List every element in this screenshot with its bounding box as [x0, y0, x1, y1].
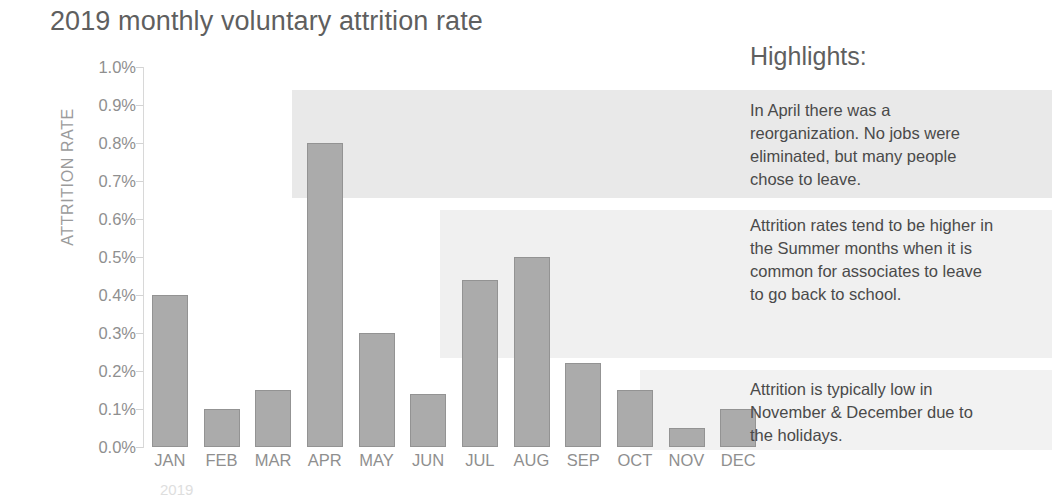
bar-jun[interactable] — [410, 394, 446, 447]
bar-chart-plot-area — [144, 67, 764, 447]
y-tick-mark — [136, 219, 143, 220]
bar-jul[interactable] — [462, 280, 498, 447]
y-axis-tick-labels: 1.0%0.9%0.8%0.7%0.6%0.5%0.4%0.3%0.2%0.1%… — [78, 67, 136, 447]
bar-mar[interactable] — [255, 390, 291, 447]
x-tick-label: JUL — [454, 452, 506, 469]
x-tick-label: FEB — [196, 452, 248, 469]
x-tick-label: DEC — [712, 452, 764, 469]
bar-aug[interactable] — [514, 257, 550, 447]
y-tick-label: 0.5% — [98, 249, 136, 266]
bar-nov[interactable] — [669, 428, 705, 447]
y-tick-mark — [136, 333, 143, 334]
y-axis-title: ATTRITION RATE — [59, 67, 77, 287]
y-tick-mark — [136, 371, 143, 372]
highlight-text-holidays: Attrition is typically low in November &… — [750, 378, 998, 447]
x-tick-label: JUN — [402, 452, 454, 469]
highlight-text-april: In April there was a reorganization. No … — [750, 99, 998, 191]
x-tick-label: AUG — [506, 452, 558, 469]
bar-feb[interactable] — [204, 409, 240, 447]
y-tick-mark — [136, 67, 143, 68]
highlight-text-summer: Attrition rates tend to be higher in the… — [750, 214, 998, 306]
x-axis-footnote: 2019 — [160, 481, 193, 498]
x-axis-tick-labels: JANFEBMARAPRMAYJUNJULAUGSEPOCTNOVDEC — [144, 452, 764, 476]
chart-title: 2019 monthly voluntary attrition rate — [50, 6, 483, 37]
bar-oct[interactable] — [617, 390, 653, 447]
x-tick-label: SEP — [557, 452, 609, 469]
y-tick-label: 0.3% — [98, 325, 136, 342]
y-tick-mark — [136, 143, 143, 144]
y-axis-line — [143, 67, 144, 448]
x-tick-label: MAR — [247, 452, 299, 469]
bar-sep[interactable] — [565, 363, 601, 447]
y-tick-mark — [136, 257, 143, 258]
y-tick-mark — [136, 105, 143, 106]
x-tick-label: MAY — [351, 452, 403, 469]
y-tick-label: 0.2% — [98, 363, 136, 380]
y-tick-label: 0.1% — [98, 401, 136, 418]
x-tick-label: NOV — [661, 452, 713, 469]
y-tick-label: 0.7% — [98, 173, 136, 190]
y-tick-label: 0.6% — [98, 211, 136, 228]
y-tick-mark — [136, 181, 143, 182]
x-tick-label: JAN — [144, 452, 196, 469]
y-tick-mark — [136, 409, 143, 410]
y-tick-mark — [136, 295, 143, 296]
bar-jan[interactable] — [152, 295, 188, 447]
y-tick-label: 1.0% — [98, 59, 136, 76]
x-tick-label: OCT — [609, 452, 661, 469]
bar-may[interactable] — [359, 333, 395, 447]
y-tick-label: 0.4% — [98, 287, 136, 304]
bar-apr[interactable] — [307, 143, 343, 447]
y-tick-label: 0.9% — [98, 97, 136, 114]
y-tick-label: 0.8% — [98, 135, 136, 152]
y-tick-label: 0.0% — [98, 439, 136, 456]
x-tick-label: APR — [299, 452, 351, 469]
y-tick-mark — [136, 447, 143, 448]
highlights-title: Highlights: — [750, 42, 867, 71]
